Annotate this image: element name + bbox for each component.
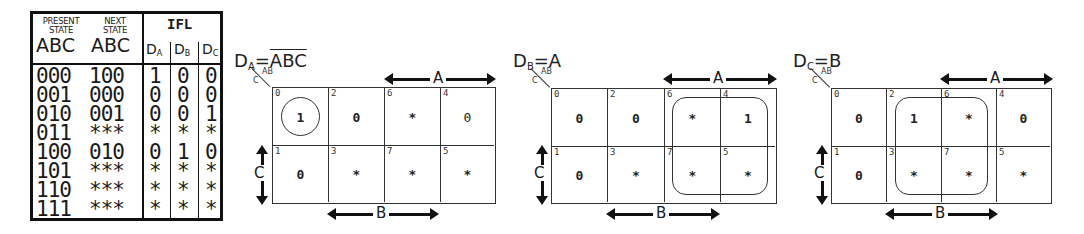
kmap-db-equation: DB=A xyxy=(513,50,561,72)
next-state-label: NEXT STATE xyxy=(89,17,141,35)
kmap-cell-1: 10 xyxy=(273,146,329,202)
dc-divider xyxy=(198,42,199,218)
da-cell: * xyxy=(149,200,161,218)
kmap-cell-7: 7* xyxy=(385,146,441,202)
corner-label-ab: AB xyxy=(262,67,273,76)
arrow-b: B xyxy=(885,208,998,220)
arrow-a: A xyxy=(940,73,1053,85)
ifl-divider xyxy=(142,14,144,218)
arrow-b: B xyxy=(606,208,720,220)
present-state-label: PRESENT STATE xyxy=(35,17,87,35)
kmap-cell-1: 10 xyxy=(832,147,887,202)
kmap-cell-1: 10 xyxy=(552,147,608,202)
group-circle xyxy=(281,97,320,136)
next-cell: *** xyxy=(89,200,124,218)
arrow-a: A xyxy=(663,73,777,85)
kmap-dc-equation: DC=B xyxy=(793,50,841,72)
kmap-cell-4: 40 xyxy=(997,89,1050,147)
state-table: PRESENT STATE ABC NEXT STATE ABC IFL DA … xyxy=(30,11,223,221)
dc-header: DC xyxy=(202,41,218,58)
arrow-c: C xyxy=(536,145,548,205)
kmap-cell-2: 20 xyxy=(608,89,665,147)
arrow-c: C xyxy=(816,145,828,205)
kmap-cell-4: 40 xyxy=(441,88,494,146)
arrow-b: B xyxy=(327,208,439,220)
kmap-cell-0: 00 xyxy=(552,89,608,147)
corner-label-c: C xyxy=(532,76,538,85)
corner-label-ab: AB xyxy=(541,67,552,76)
kmap-cell-6: 6* xyxy=(385,88,441,146)
kmap-cell-5: 5* xyxy=(441,146,494,202)
group-loop xyxy=(672,97,768,195)
present-cell: 111 xyxy=(36,200,71,218)
dc-cell: * xyxy=(205,200,217,218)
kmap-cell-0: 00 xyxy=(832,89,887,147)
db-cell: * xyxy=(177,200,189,218)
next-state-vars: ABC xyxy=(91,36,130,55)
corner-label-c: C xyxy=(253,76,259,85)
kmap-cell-3: 3* xyxy=(329,146,385,202)
corner-label-c: C xyxy=(812,76,818,85)
kmap-cell-2: 20 xyxy=(329,88,385,146)
ifl-header: IFL xyxy=(167,16,192,32)
kmap-cell-5: 5* xyxy=(997,147,1050,202)
group-loop xyxy=(895,97,988,195)
db-header: DB xyxy=(174,41,190,58)
corner-label-ab: AB xyxy=(821,67,832,76)
present-state-vars: ABC xyxy=(36,36,75,55)
arrow-a: A xyxy=(384,73,496,85)
db-divider xyxy=(170,42,171,218)
kmap-cell-3: 3* xyxy=(608,147,665,202)
arrow-c: C xyxy=(256,145,268,205)
da-header: DA xyxy=(146,41,162,58)
